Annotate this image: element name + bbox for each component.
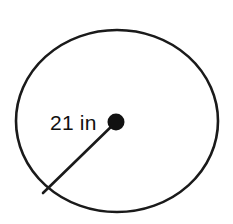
circle-diagram: 21 in — [0, 0, 233, 224]
radius-label: 21 in — [50, 111, 97, 134]
center-dot — [108, 114, 125, 131]
diagram-canvas: 21 in — [0, 0, 233, 224]
